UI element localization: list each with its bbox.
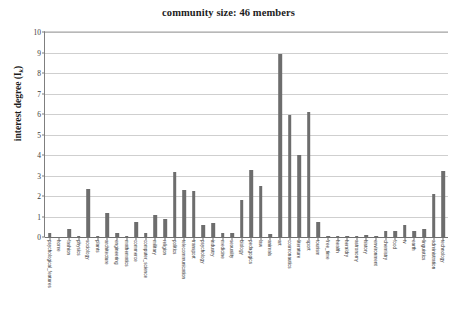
x-tick-label: free_time	[325, 240, 330, 260]
x-tick-label: food	[392, 240, 397, 249]
bar-slot	[218, 32, 228, 237]
bar-slot	[371, 32, 381, 237]
y-tick-label: 2	[37, 192, 41, 201]
y-axis-title-text: interest degree (I	[13, 72, 23, 141]
bar-slot	[141, 32, 151, 237]
x-tick-label: physics	[75, 240, 80, 256]
x-tick-label: sociology	[85, 240, 90, 260]
bar	[250, 170, 254, 237]
bar-slot	[429, 32, 439, 237]
bar-slot	[256, 32, 266, 237]
bar-slot	[390, 32, 400, 237]
bar	[317, 222, 321, 237]
chart-title: community size: 46 members	[0, 7, 457, 18]
y-tick-label: 10	[34, 28, 42, 37]
x-tick-label: biology	[238, 240, 243, 255]
bar-slot	[362, 32, 372, 237]
bar-slot	[247, 32, 257, 237]
x-tick-label: computer_science	[142, 240, 147, 278]
bar-slot	[237, 32, 247, 237]
gridline-0	[45, 237, 448, 238]
x-tick-label: fashion	[66, 240, 71, 255]
y-tick-label: 6	[37, 110, 41, 119]
bar-slot	[227, 32, 237, 237]
y-tick-label: 9	[37, 48, 41, 57]
bar-slot	[266, 32, 276, 237]
bar-slot	[199, 32, 209, 237]
bar	[202, 225, 206, 237]
bar-slot	[151, 32, 161, 237]
bar	[106, 213, 110, 237]
x-tick-label: medicine	[219, 240, 224, 259]
bar-slot	[170, 32, 180, 237]
bar-slot	[323, 32, 333, 237]
bar	[192, 191, 196, 237]
bar-slot	[112, 32, 122, 237]
x-tick-label: sport	[306, 240, 311, 250]
bar-slot	[410, 32, 420, 237]
bar-slot	[400, 32, 410, 237]
x-tick-label: telecommunication	[181, 240, 186, 279]
bar-slot	[179, 32, 189, 237]
y-axis-title-suffix: )	[13, 66, 23, 69]
x-tick-label: astronomy	[354, 240, 359, 262]
x-tick-label: architecture	[104, 240, 109, 265]
bar-slot	[285, 32, 295, 237]
bar	[163, 219, 167, 237]
bar	[211, 223, 215, 237]
bar	[288, 115, 292, 237]
y-tick-label: 1	[37, 212, 41, 221]
bar	[259, 186, 263, 237]
bar-slot	[131, 32, 141, 237]
bar-slot	[304, 32, 314, 237]
x-tick-label: environment	[373, 240, 378, 266]
x-tick-label: psychology	[200, 240, 205, 263]
bar-slot	[381, 32, 391, 237]
x-tick-label: military	[152, 240, 157, 255]
y-axis-title-subscript: k	[17, 69, 25, 73]
x-tick-label: psychological_features	[47, 240, 52, 288]
bar	[297, 155, 301, 237]
bar-slot	[294, 32, 304, 237]
y-axis-title: interest degree (Ik)	[13, 28, 26, 178]
bar-slot	[208, 32, 218, 237]
x-tick-label: home	[56, 240, 61, 252]
x-tick-label: transport	[190, 240, 195, 259]
bar	[154, 215, 158, 237]
bar	[240, 200, 244, 237]
bar	[307, 112, 311, 237]
bar	[422, 229, 426, 237]
bar	[67, 229, 71, 237]
x-tick-label: law	[258, 240, 263, 247]
x-tick-label: chemistry	[382, 240, 387, 260]
bars-layer	[45, 32, 448, 237]
x-tick-label: history	[363, 240, 368, 254]
x-tick-label: sexuality	[229, 240, 234, 258]
x-tick-label: industry	[210, 240, 215, 257]
bar	[403, 225, 407, 237]
y-tick-label: 7	[37, 89, 41, 98]
bar	[432, 194, 436, 237]
bar	[278, 54, 282, 237]
x-tick-label: animals	[267, 240, 272, 256]
x-tick-label: mathematics	[123, 240, 128, 267]
x-tick-label: engineering	[114, 240, 119, 265]
x-tick-label: plants	[94, 240, 99, 253]
x-tick-label: health	[334, 240, 339, 253]
bar-slot	[342, 32, 352, 237]
x-tick-label: earth	[411, 240, 416, 251]
y-tick-label: 5	[37, 130, 41, 139]
bar	[86, 189, 90, 237]
x-axis-labels: psychological_featureshomefashionphysics…	[44, 240, 448, 318]
bar-slot	[419, 32, 429, 237]
bar-slot	[45, 32, 55, 237]
x-tick-label: commerce	[133, 240, 138, 262]
x-tick-label: tv	[402, 240, 407, 244]
bar	[182, 190, 186, 237]
bar	[134, 222, 138, 237]
bar-slot	[352, 32, 362, 237]
x-tick-label: art	[277, 240, 282, 246]
bar-slot	[55, 32, 65, 237]
x-tick-label: technology	[440, 240, 445, 263]
x-tick-label: politics	[171, 240, 176, 254]
